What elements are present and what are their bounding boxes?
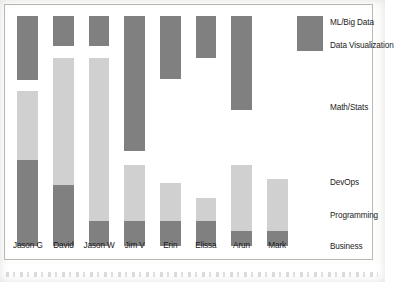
bar-column xyxy=(17,8,38,258)
legend-label: Math/Stats xyxy=(330,103,368,112)
bar-segment xyxy=(160,183,181,221)
x-axis-label: David xyxy=(46,241,82,250)
bar-segment xyxy=(124,16,145,151)
bar-segment xyxy=(124,165,145,221)
bar-segment xyxy=(231,16,252,110)
bar-segment xyxy=(17,16,38,80)
bar-segment xyxy=(89,16,110,46)
bar-segment xyxy=(53,185,74,246)
legend-label: Business xyxy=(330,242,362,251)
bar-column xyxy=(124,8,145,258)
bar-segment xyxy=(53,58,74,186)
bar-column xyxy=(160,8,181,258)
bar-segment xyxy=(267,179,288,231)
bar-segment xyxy=(89,58,110,221)
chart-frame: Jason GDavidJason WJim VErinElissaArunMa… xyxy=(4,4,373,260)
bar-column xyxy=(196,8,217,258)
legend-label: DevOps xyxy=(330,178,359,187)
plot-area: Jason GDavidJason WJim VErinElissaArunMa… xyxy=(10,8,295,258)
bar-segment xyxy=(160,16,181,79)
x-axis-label: Jim V xyxy=(117,241,153,250)
scan-artifact-text-line xyxy=(6,272,378,277)
x-axis-label: Erin xyxy=(153,241,189,250)
x-axis-label: Arun xyxy=(224,241,260,250)
bar-segment xyxy=(231,165,252,231)
bar-segment xyxy=(196,198,217,221)
bar-segment xyxy=(53,16,74,46)
bar-segment xyxy=(17,91,38,160)
bar-column xyxy=(89,8,110,258)
legend-label: Data Visualization xyxy=(330,41,394,50)
x-axis-label: Jason W xyxy=(81,241,117,250)
x-axis-label: Jason G xyxy=(10,241,46,250)
legend-label: ML/Big Data xyxy=(330,18,374,27)
bar-column xyxy=(53,8,74,258)
bar-column xyxy=(267,8,288,258)
legend-label: Programming xyxy=(330,211,378,220)
legend-swatch xyxy=(297,16,323,51)
bar-column xyxy=(231,8,252,258)
x-axis-label: Elissa xyxy=(188,241,224,250)
bar-segment xyxy=(17,160,38,246)
chart-legend: ML/Big DataData VisualizationMath/StatsD… xyxy=(297,8,389,258)
x-axis-label: Mark xyxy=(259,241,295,250)
bar-segment xyxy=(196,16,217,58)
